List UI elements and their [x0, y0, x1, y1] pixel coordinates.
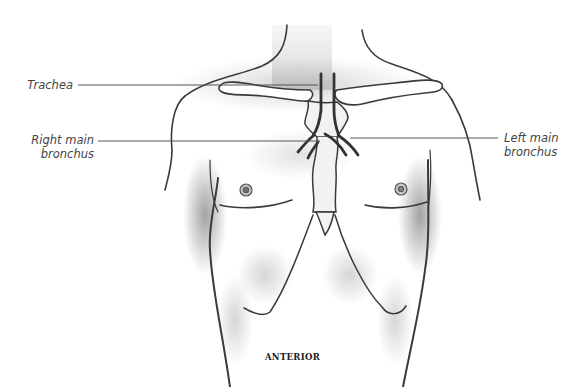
view-caption: ANTERIOR	[0, 352, 585, 362]
right-main-bronchus-label: Right main bronchus	[15, 133, 94, 161]
anterior-chest-illustration	[0, 0, 585, 387]
right-main-bronchus-label-line1: Right main	[15, 133, 94, 147]
left-main-bronchus-label: Left main bronchus	[504, 131, 558, 159]
anatomy-figure: Trachea Right main bronchus Left main br…	[0, 0, 585, 387]
left-main-bronchus-label-line1: Left main	[504, 131, 558, 145]
left-main-bronchus-label-line2: bronchus	[504, 145, 558, 159]
trachea-label: Trachea	[25, 78, 73, 92]
right-main-bronchus-label-line2: bronchus	[15, 147, 94, 161]
